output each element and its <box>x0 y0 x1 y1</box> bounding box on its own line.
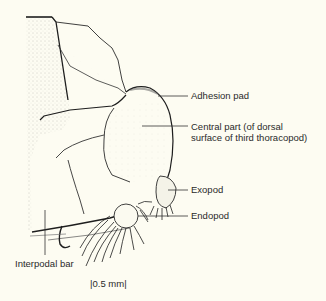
label-central-part-line1: Central part (of dorsal <box>191 121 307 132</box>
label-adhesion-pad: Adhesion pad <box>191 90 249 101</box>
thoracopod-drawing <box>0 0 326 301</box>
label-exopod: Exopod <box>191 184 223 195</box>
label-central-part: Central part (of dorsal surface of third… <box>191 121 307 143</box>
label-endopod: Endopod <box>191 210 229 221</box>
exopod <box>150 176 176 220</box>
scale-bar: |0.5 mm| <box>90 278 127 289</box>
label-interpodal-bar: Interpodal bar <box>15 258 74 269</box>
body-segment <box>26 17 70 232</box>
endopod <box>114 201 152 228</box>
label-central-part-line2: surface of third thoracopod) <box>191 132 307 143</box>
